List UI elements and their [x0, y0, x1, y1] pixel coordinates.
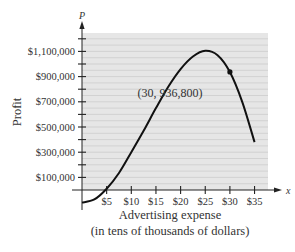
x-tick-label: $35 — [247, 196, 263, 207]
profit-chart: $1,100,000$900,000$700,000$500,000$300,0… — [0, 0, 295, 252]
x-tick-label: $10 — [123, 196, 139, 207]
y-tick-label: $500,000 — [36, 122, 75, 133]
y-tick-label: $900,000 — [36, 71, 75, 82]
y-axis-ticks: $1,100,000$900,000$700,000$500,000$300,0… — [28, 39, 86, 183]
x-tick-label: $5 — [101, 196, 112, 207]
x-variable-label: x — [285, 185, 291, 196]
x-tick-label: $25 — [197, 196, 213, 207]
plot-background — [82, 33, 268, 190]
y-axis-title: Profit — [10, 97, 24, 126]
y-tick-label: $700,000 — [36, 96, 75, 107]
x-tick-label: $30 — [222, 196, 238, 207]
y-tick-label: $300,000 — [36, 147, 75, 158]
y-variable-label: P — [78, 10, 85, 21]
y-tick-label: $100,000 — [36, 172, 75, 183]
x-axis-subtitle: (in tens of thousands of dollars) — [91, 224, 250, 238]
annotated-point-marker — [227, 69, 232, 74]
x-axis-title: Advertising expense — [119, 208, 222, 222]
x-tick-label: $15 — [148, 196, 164, 207]
y-tick-label: $1,100,000 — [28, 46, 75, 57]
x-tick-label: $20 — [173, 196, 189, 207]
point-annotation: (30, 936,800) — [138, 86, 203, 100]
